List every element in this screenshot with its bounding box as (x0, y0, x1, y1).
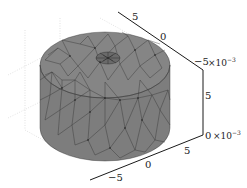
z-tick-5: 5 (205, 91, 211, 101)
x-tick-0: 0 (145, 160, 151, 170)
cylinder-mesh (40, 32, 170, 161)
x-tick-neg5: −5 (108, 173, 123, 183)
y-tick-neg5: −5 (194, 57, 209, 67)
y-multiplier: ×10−3 (208, 57, 236, 68)
y-tick-5: 5 (132, 12, 138, 22)
z-multiplier: ×10−3 (213, 130, 241, 141)
z-tick-0: 0 (205, 131, 211, 141)
x-tick-5: 5 (184, 146, 190, 156)
y-tick-0: 0 (160, 32, 166, 42)
